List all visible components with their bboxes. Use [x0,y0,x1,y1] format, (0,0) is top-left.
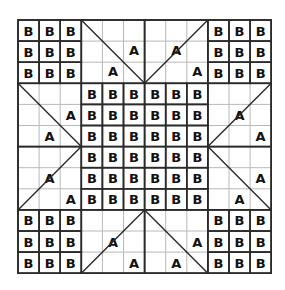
b-cell-label: B [235,66,245,81]
b-cell-label: B [150,108,160,123]
b-cell-label: B [66,213,76,228]
b-cell-label: B [150,171,160,186]
a-label: A [66,192,76,207]
b-cell-label: B [66,66,76,81]
a-label: A [192,64,202,79]
b-cell-label: B [256,256,266,271]
b-cell-label: B [108,108,118,123]
b-cell-label: B [24,256,34,271]
b-cell-label: B [171,87,181,102]
b-cell-label: B [150,87,160,102]
a-label: A [192,235,202,250]
b-cell-label: B [108,192,118,207]
b-cell-label: B [213,256,223,271]
b-cell-label: B [129,87,139,102]
b-cell-label: B [150,192,160,207]
b-cell-label: B [213,66,223,81]
b-cell-label: B [87,171,97,186]
b-cell-label: B [87,192,97,207]
b-cell-label: B [129,192,139,207]
a-label: A [66,108,76,123]
b-cell-label: B [108,171,118,186]
b-cell-label: B [150,129,160,144]
b-cell-label: B [129,150,139,165]
b-cell-label: B [235,24,245,39]
b-cell-label: B [256,45,266,60]
b-cell-label: B [45,235,55,250]
b-cell-label: B [235,45,245,60]
b-cell-label: B [24,235,34,250]
b-cell-label: B [171,150,181,165]
b-cell-label: B [129,129,139,144]
b-cell-label: B [256,213,266,228]
b-cell-label: B [213,213,223,228]
b-cell-label: B [108,150,118,165]
a-label: A [45,129,55,144]
a-label: A [256,129,266,144]
b-cell-label: B [192,87,202,102]
b-cell-label: B [213,235,223,250]
b-cell-label: B [192,108,202,123]
b-cell-label: B [192,129,202,144]
b-cell-label: B [235,256,245,271]
block-borders [18,20,271,273]
b-cell-label: B [171,129,181,144]
a-label: A [256,171,266,186]
b-cell-label: B [45,24,55,39]
b-cell-label: B [66,256,76,271]
b-cell-label: B [192,150,202,165]
b-cell-label: B [256,235,266,250]
b-cell-label: B [171,108,181,123]
b-cell-label: B [256,66,266,81]
b-cell-label: B [24,45,34,60]
a-label: A [171,256,181,271]
b-cell-label: B [45,256,55,271]
b-cell-label: B [256,24,266,39]
b-cell-label: B [108,87,118,102]
b-cell-label: B [24,24,34,39]
b-cell-label: B [87,87,97,102]
b-cell-label: B [66,24,76,39]
b-cell-label: B [192,192,202,207]
b-cell-label: B [171,171,181,186]
quilt-grid-diagram: BBBBBBBBBBBBBBBBBBBBBBBBBBBBBBBBBBBBBBBB… [0,0,285,290]
b-cell-label: B [213,24,223,39]
b-cell-label: B [87,150,97,165]
b-cell-label: B [24,66,34,81]
a-label: A [108,64,118,79]
b-cell-label: B [129,108,139,123]
b-cell-label: B [108,129,118,144]
b-cell-label: B [45,66,55,81]
a-label: A [129,43,139,58]
b-cell-label: B [24,213,34,228]
b-cell-label: B [45,213,55,228]
b-cell-label: B [87,129,97,144]
b-cell-label: B [66,45,76,60]
a-label: A [129,256,139,271]
b-cell-label: B [192,171,202,186]
b-cell-label: B [87,108,97,123]
b-cell-label: B [129,171,139,186]
b-cell-label: B [150,150,160,165]
b-cell-label: B [235,213,245,228]
b-cell-label: B [45,45,55,60]
a-label: A [235,192,245,207]
b-cell-label: B [235,235,245,250]
b-cell-label: B [213,45,223,60]
b-cell-label: B [66,235,76,250]
b-cell-label: B [171,192,181,207]
